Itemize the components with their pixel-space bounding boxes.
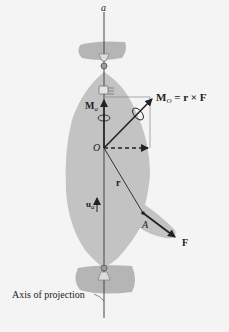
point-a-label: A [142,220,148,230]
diagram-canvas [0,0,229,332]
axis-caption: Axis of projection [12,290,85,300]
force-label: F [182,238,188,248]
bottom-hinge-icon [101,265,107,271]
position-vector-label: r [116,178,120,188]
axis-a-label: a [101,3,106,13]
origin-label: O [93,143,100,153]
moment-o-label: MO = r × F [156,92,206,105]
moment-axis-label: Ma [85,101,98,113]
unit-vector-label: ua [86,200,95,211]
caption-leader [94,294,104,301]
top-hinge-icon [101,63,107,69]
